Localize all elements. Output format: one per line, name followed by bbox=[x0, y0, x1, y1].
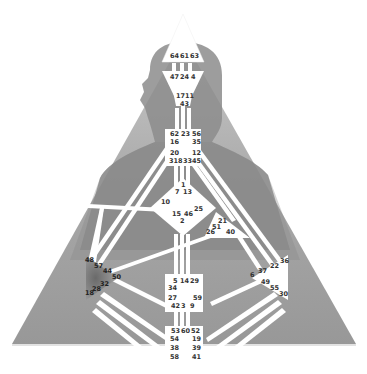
gate-7: 7 bbox=[175, 188, 180, 196]
gate-23: 23 bbox=[181, 130, 190, 138]
gate-26: 26 bbox=[206, 228, 216, 236]
gate-41: 41 bbox=[192, 353, 202, 361]
gate-25: 25 bbox=[194, 205, 204, 213]
gate-36: 36 bbox=[280, 257, 290, 265]
gate-30: 30 bbox=[279, 290, 289, 298]
gate-20: 20 bbox=[170, 149, 180, 157]
gate-63: 63 bbox=[190, 52, 199, 60]
gate-35: 35 bbox=[192, 138, 202, 146]
gate-4: 4 bbox=[191, 73, 196, 81]
gate-61: 61 bbox=[180, 52, 190, 60]
gate-59: 59 bbox=[193, 294, 203, 302]
gate-12: 12 bbox=[192, 149, 201, 157]
gate-37: 37 bbox=[258, 267, 267, 275]
gate-47: 47 bbox=[170, 73, 179, 81]
gate-56: 56 bbox=[192, 130, 202, 138]
gate-32: 32 bbox=[100, 280, 109, 288]
gate-58: 58 bbox=[170, 353, 180, 361]
gate-52: 52 bbox=[191, 327, 200, 335]
gate-24: 24 bbox=[180, 73, 190, 81]
gate-22: 22 bbox=[270, 262, 279, 270]
gate-6: 6 bbox=[250, 271, 255, 279]
gate-54: 54 bbox=[170, 335, 180, 343]
gate-19: 19 bbox=[192, 335, 202, 343]
gate-9: 9 bbox=[190, 302, 195, 310]
gate-2: 2 bbox=[180, 217, 185, 225]
gate-43: 43 bbox=[180, 100, 189, 108]
gate-3: 3 bbox=[181, 302, 186, 310]
gate-13: 13 bbox=[183, 188, 192, 196]
gate-10: 10 bbox=[161, 198, 171, 206]
gate-16: 16 bbox=[170, 138, 180, 146]
gate-27: 27 bbox=[168, 294, 177, 302]
gate-57: 57 bbox=[94, 262, 103, 270]
gate-34: 34 bbox=[168, 284, 178, 292]
gate-39: 39 bbox=[192, 344, 202, 352]
gate-53: 53 bbox=[171, 327, 180, 335]
gate-45: 45 bbox=[192, 157, 202, 165]
gate-50: 50 bbox=[112, 273, 122, 281]
gate-18: 18 bbox=[85, 289, 95, 297]
gate-62: 62 bbox=[170, 130, 179, 138]
gate-60: 60 bbox=[181, 327, 191, 335]
gate-17: 17 bbox=[176, 92, 185, 100]
bodygraph-diagram: 64 61 63 47 24 4 17 11 43 62 23 56 16 35… bbox=[0, 0, 367, 374]
gate-40: 40 bbox=[226, 228, 236, 236]
gate-14: 14 bbox=[180, 277, 190, 285]
gate-42: 42 bbox=[171, 302, 180, 310]
gate-11: 11 bbox=[185, 92, 195, 100]
gate-46: 46 bbox=[184, 210, 194, 218]
gate-64: 64 bbox=[170, 52, 180, 60]
gate-33: 33 bbox=[183, 157, 192, 165]
gate-38: 38 bbox=[170, 344, 180, 352]
gate-29: 29 bbox=[190, 277, 200, 285]
